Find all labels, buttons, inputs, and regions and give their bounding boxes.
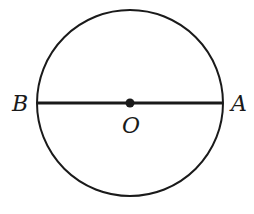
- label-a: A: [229, 91, 247, 116]
- circle-diagram: B A O: [0, 0, 254, 214]
- center-point-o: [126, 99, 135, 108]
- label-b: B: [11, 91, 28, 116]
- label-o: O: [122, 113, 140, 138]
